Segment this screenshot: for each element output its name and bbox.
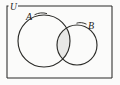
- venn-diagram-canvas: U A B: [0, 0, 120, 85]
- rect-border-left: [7, 6, 9, 78]
- universal-set-label: U: [10, 2, 18, 12]
- set-a-label: A: [25, 11, 33, 22]
- leader-line-b: [77, 23, 87, 25]
- set-b-label: B: [88, 20, 94, 31]
- venn-diagram-figure: U A B: [0, 0, 120, 85]
